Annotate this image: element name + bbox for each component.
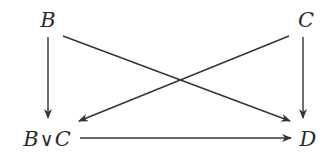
- node-b-or-c-right: C: [55, 127, 71, 151]
- node-b-or-c-left: B: [23, 127, 38, 151]
- node-d: D: [300, 129, 317, 150]
- node-c: C: [298, 10, 314, 31]
- join-operator: ∨: [40, 128, 54, 150]
- node-b: B: [40, 10, 55, 31]
- node-b-or-c: B∨C: [23, 129, 70, 150]
